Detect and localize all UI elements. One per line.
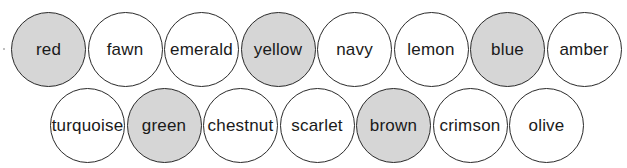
circle-label: chestnut xyxy=(208,116,274,136)
color-circle: chestnut xyxy=(203,88,278,163)
circle-label: green xyxy=(142,116,186,136)
color-circle: brown xyxy=(356,88,431,163)
circle-label: navy xyxy=(336,40,373,60)
circle-label: amber xyxy=(559,40,608,60)
color-circle: turquoise xyxy=(50,88,125,163)
color-circle: amber xyxy=(547,12,622,87)
circle-label: scarlet xyxy=(291,116,342,136)
color-circle: fawn xyxy=(88,12,163,87)
circle-label: brown xyxy=(370,116,417,136)
circle-row-2: turquoise green chestnut scarlet brown c… xyxy=(50,88,586,163)
circle-label: fawn xyxy=(107,40,144,60)
circle-label: crimson xyxy=(440,116,501,136)
circle-label: yellow xyxy=(254,40,302,60)
color-circle: navy xyxy=(317,12,392,87)
circle-label: olive xyxy=(529,116,565,136)
circle-row-1: red fawn emerald yellow navy lemon blue … xyxy=(11,12,623,87)
color-circle: green xyxy=(127,88,202,163)
color-circle: scarlet xyxy=(280,88,355,163)
stray-dot xyxy=(3,48,5,50)
color-circle: lemon xyxy=(394,12,469,87)
color-circle: emerald xyxy=(164,12,239,87)
circle-label: emerald xyxy=(170,40,233,60)
circle-label: blue xyxy=(491,40,524,60)
color-circle: red xyxy=(11,12,86,87)
circle-label: lemon xyxy=(407,40,454,60)
color-circle: blue xyxy=(470,12,545,87)
circle-label: red xyxy=(36,40,61,60)
circle-label: turquoise xyxy=(52,116,124,136)
color-circle: olive xyxy=(509,88,584,163)
color-circle: crimson xyxy=(433,88,508,163)
color-circle: yellow xyxy=(241,12,316,87)
